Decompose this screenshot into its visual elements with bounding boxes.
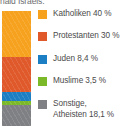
- chart-legend: Katholiken 40 % Protestanten 30 % Juden …: [38, 9, 127, 126]
- legend-label-line1: Sonstige,: [53, 99, 87, 108]
- caption-text: nald Israels.: [0, 0, 127, 7]
- infographic-stacked-bar-chart: nald Israels. Katholiken 40 % Protestant…: [0, 0, 127, 126]
- legend-swatch-muslime: [38, 77, 47, 86]
- legend-item-juden: Juden 8,4 %: [38, 54, 98, 65]
- legend-swatch-katholiken: [38, 10, 47, 19]
- legend-label-line1: Muslime 3,5 %: [53, 76, 106, 85]
- bar-segment-katholiken: [2, 11, 31, 57]
- legend-label-juden: Juden 8,4 %: [53, 54, 98, 65]
- legend-label-katholiken: Katholiken 40 %: [53, 9, 111, 20]
- legend-item-muslime: Muslime 3,5 %: [38, 76, 106, 87]
- legend-item-sonstige: Sonstige, Atheisten 18,1 %: [38, 99, 114, 120]
- legend-label-line1: Juden 8,4 %: [53, 54, 98, 63]
- legend-swatch-protestanten: [38, 32, 47, 41]
- bar-segment-protestanten: [2, 57, 31, 92]
- legend-label-sonstige: Sonstige, Atheisten 18,1 %: [53, 99, 114, 120]
- legend-swatch-juden: [38, 55, 47, 64]
- legend-label-line1: Protestanten 30 %: [53, 31, 120, 40]
- legend-label-line1: Katholiken 40 %: [53, 9, 111, 18]
- legend-swatch-sonstige: [38, 100, 47, 109]
- bar-segment-juden: [2, 92, 31, 102]
- legend-item-katholiken: Katholiken 40 %: [38, 9, 111, 20]
- bar-segment-sonstige: [2, 105, 31, 126]
- legend-label-line2: Atheisten 18,1 %: [53, 110, 114, 121]
- legend-label-muslime: Muslime 3,5 %: [53, 76, 106, 87]
- stacked-bar: [2, 11, 31, 126]
- legend-label-protestanten: Protestanten 30 %: [53, 31, 120, 42]
- legend-item-protestanten: Protestanten 30 %: [38, 31, 120, 42]
